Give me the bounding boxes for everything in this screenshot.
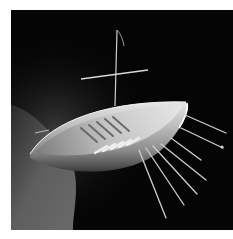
boat-illustration — [11, 10, 233, 230]
photograph: Model boat with mast and oars — [11, 10, 233, 230]
